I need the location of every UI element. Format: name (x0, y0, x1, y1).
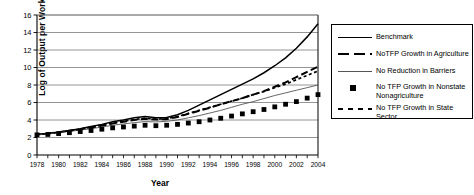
data-marker-square (99, 127, 104, 132)
data-marker-square (294, 99, 299, 104)
legend-label: No TFP Growth in State Sector (374, 104, 472, 121)
legend-key-icon (336, 104, 374, 113)
legend-key-icon (336, 67, 374, 76)
legend-label: No Reduction in Barriers (374, 67, 456, 76)
x-tick-label: 1978 (30, 161, 45, 168)
data-marker-square (89, 128, 94, 133)
legend-label: Benchmark (374, 33, 413, 42)
dashed-line-key (338, 53, 372, 55)
legend-item: Benchmark (336, 33, 413, 42)
y-tick-label: 0 (27, 151, 31, 160)
x-tick-label: 1982 (73, 161, 88, 168)
legend-item: No TFP Growth in State Sector (336, 104, 472, 121)
dotted-line-key (338, 108, 372, 110)
y-tick-label: 2 (27, 133, 31, 142)
y-tick-label: 10 (23, 63, 31, 72)
data-marker-square (208, 118, 213, 123)
y-tick-label: 14 (23, 28, 31, 37)
data-marker-square (240, 111, 245, 116)
data-marker-square (175, 122, 180, 127)
legend-label: NoTFP Growth in Agriculture (374, 50, 469, 59)
y-tick-label: 8 (27, 81, 31, 90)
data-marker-square (143, 123, 148, 128)
data-marker-square (197, 119, 202, 124)
plot-area-wrapper: Log of Output per Worker Year 0246810121… (0, 0, 330, 195)
data-marker-square (283, 102, 288, 107)
x-tick-label: 1986 (116, 161, 131, 168)
data-marker-square (132, 124, 137, 129)
x-tick-label: 2002 (289, 161, 304, 168)
x-tick-label: 1994 (203, 161, 218, 168)
chart-legend: BenchmarkNoTFP Growth in AgricultureNo R… (331, 24, 473, 119)
x-tick-label: 1992 (181, 161, 196, 168)
data-marker-square (121, 125, 126, 130)
data-marker-square (110, 125, 115, 130)
legend-item: NoTFP Growth in Agriculture (336, 50, 469, 59)
x-tick-label: 1988 (138, 161, 153, 168)
y-tick-label: 4 (27, 116, 31, 125)
legend-item: No TFP Growth in Nonstate Nonagriculture (336, 83, 465, 100)
y-tick-label: 12 (23, 46, 31, 55)
x-tick-label: 2000 (267, 161, 282, 168)
chart-svg: 0246810121416197819801982198419861988199… (0, 0, 330, 195)
square-marker-key (350, 85, 356, 91)
data-series-line (37, 85, 318, 134)
solid-line-key (338, 37, 372, 38)
x-tick-label: 1980 (51, 161, 66, 168)
data-marker-square (186, 121, 191, 126)
x-tick-label: 2004 (311, 161, 326, 168)
data-marker-square (218, 116, 223, 121)
x-tick-label: 1998 (246, 161, 261, 168)
data-marker-square (272, 104, 277, 109)
legend-key-icon (336, 33, 374, 42)
y-tick-label: 16 (23, 11, 31, 20)
legend-item: No Reduction in Barriers (336, 67, 456, 76)
data-marker-square (164, 123, 169, 128)
legend-label: No TFP Growth in Nonstate Nonagriculture (374, 83, 465, 100)
thin-line-key (338, 71, 372, 72)
x-tick-label: 1990 (159, 161, 174, 168)
data-marker-square (305, 96, 310, 101)
x-tick-label: 1996 (224, 161, 239, 168)
data-marker-square (229, 114, 234, 119)
data-marker-square (251, 109, 256, 114)
y-tick-label: 6 (27, 98, 31, 107)
chart-figure: Log of Output per Worker Year 0246810121… (0, 0, 474, 195)
legend-key-icon (336, 50, 374, 59)
data-marker-square (262, 107, 267, 112)
data-marker-square (153, 123, 158, 128)
data-marker-square (316, 92, 321, 97)
legend-key-icon (336, 83, 374, 92)
x-tick-label: 1984 (95, 161, 110, 168)
